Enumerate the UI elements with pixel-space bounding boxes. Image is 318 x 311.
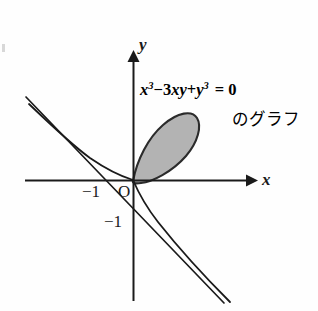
origin-label: O [118, 183, 130, 200]
equation-term-x: x [140, 80, 148, 99]
japanese-caption-line: のグラフ [140, 106, 300, 130]
folium-of-descartes-figure: y x O −1 −1 x3−3xy+y3= 0 のグラフ [0, 0, 318, 311]
folium-lower-right-branch [133, 180, 230, 302]
x-axis-tick-minus-one: −1 [82, 183, 100, 200]
equation-text: x3−3xy+y3= 0 [140, 80, 237, 99]
equation-term-xy: xy [171, 80, 187, 99]
y-axis-arrowhead [128, 50, 140, 62]
equation-equals-zero: = 0 [209, 80, 237, 99]
equation-line: x3−3xy+y3= 0 [140, 80, 300, 100]
figure-caption: x3−3xy+y3= 0 のグラフ [140, 80, 300, 130]
equation-operator-plus: + [187, 80, 196, 99]
graph-canvas [0, 0, 318, 311]
x-axis-arrowhead [246, 175, 258, 187]
y-axis-label: y [139, 36, 147, 53]
x-axis-label: x [262, 171, 271, 188]
y-axis-tick-minus-one: −1 [104, 213, 122, 230]
japanese-caption-text: のグラフ [232, 110, 300, 129]
equation-operator-minus-three: −3 [154, 80, 172, 99]
equation-exponent-y: 3 [203, 80, 208, 91]
